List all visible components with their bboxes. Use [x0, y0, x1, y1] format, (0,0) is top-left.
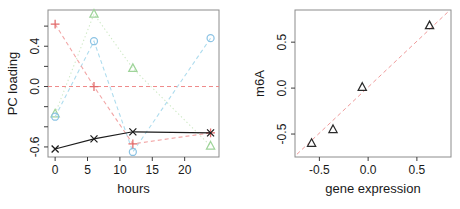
plus-marker	[128, 140, 137, 149]
figure: 05101520-0.60.00.4hoursPC loading -0.50.…	[0, 0, 460, 209]
pc-loading-line-plot: 05101520-0.60.00.4hoursPC loading	[0, 0, 230, 209]
triangle-marker	[129, 64, 137, 72]
y-axis-title: m6A	[252, 70, 267, 97]
x-tick-label: 15	[146, 163, 160, 177]
y-tick-label: -0.5	[275, 123, 289, 144]
series-line	[55, 24, 210, 144]
triangle-marker	[358, 83, 366, 91]
series-red-plus	[51, 20, 215, 149]
series-blue-circle	[52, 35, 214, 156]
circle-marker	[207, 35, 214, 42]
x-tick-label: 20	[178, 163, 192, 177]
x-tick-label: 10	[113, 163, 127, 177]
x-marker	[52, 145, 59, 152]
series-line	[55, 14, 210, 146]
triangle-marker	[329, 125, 337, 133]
triangle-marker	[206, 141, 214, 149]
triangle-marker	[90, 10, 98, 18]
circle-marker	[129, 148, 136, 155]
scatter-points	[307, 21, 433, 146]
x-tick-label: -0.5	[309, 163, 330, 177]
y-tick-label: 0.5	[275, 33, 289, 50]
y-tick-label: 0.4	[28, 38, 42, 55]
triangle-marker	[425, 21, 433, 29]
y-tick-label: -0.6	[28, 136, 42, 157]
y-axis-title: PC loading	[5, 52, 20, 116]
fit-line	[297, 11, 449, 154]
m6a-vs-gene-expression-scatter-plot: -0.50.00.5-0.50.00.5gene expressionm6A	[230, 0, 460, 209]
plus-marker	[51, 20, 60, 29]
x-tick-label: 5	[84, 163, 91, 177]
y-tick-label: 0.0	[28, 78, 42, 95]
x-tick-label: 0	[52, 163, 59, 177]
x-tick-label: 0.5	[409, 163, 426, 177]
plot-box	[295, 10, 451, 157]
plus-marker	[90, 82, 99, 91]
y-tick-label: 0.0	[275, 79, 289, 96]
x-axis-title: gene expression	[325, 181, 420, 196]
series-green-triangle	[51, 10, 215, 149]
x-tick-label: 0.0	[360, 163, 377, 177]
x-axis-title: hours	[117, 181, 150, 196]
